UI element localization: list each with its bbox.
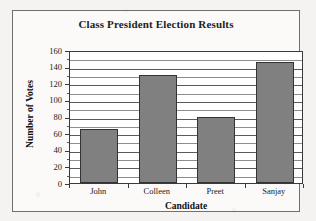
y-tick-label: 0	[32, 180, 62, 189]
y-tick-mark	[65, 134, 69, 135]
bar-series	[70, 52, 302, 183]
y-tick-label: 60	[32, 130, 62, 139]
y-tick-mark	[67, 176, 69, 177]
y-tick-mark	[65, 51, 69, 52]
plot-area	[69, 51, 303, 184]
y-tick-mark	[65, 167, 69, 168]
y-tick-label: 100	[32, 96, 62, 105]
y-tick-mark	[67, 93, 69, 94]
y-tick-mark	[65, 68, 69, 69]
bar	[197, 117, 235, 184]
x-category-label: Preet	[186, 187, 245, 196]
bar	[139, 75, 177, 183]
y-tick-label: 80	[32, 113, 62, 122]
y-tick-mark	[67, 142, 69, 143]
y-tick-label: 40	[32, 146, 62, 155]
x-tick-mark	[303, 184, 304, 188]
y-tick-mark	[67, 109, 69, 110]
chart-outer-frame: Class President Election Results 0204060…	[12, 10, 300, 212]
x-axis-title: Candidate	[69, 201, 303, 211]
y-tick-mark	[67, 59, 69, 60]
x-category-label: Sanjay	[245, 187, 304, 196]
y-tick-mark	[67, 159, 69, 160]
y-tick-mark	[65, 151, 69, 152]
chart-screenshot: Class President Election Results 0204060…	[0, 0, 316, 221]
y-tick-mark	[65, 84, 69, 85]
chart-title: Class President Election Results	[13, 18, 299, 30]
y-tick-label: 20	[32, 163, 62, 172]
y-tick-mark	[67, 126, 69, 127]
y-tick-label: 140	[32, 63, 62, 72]
y-tick-mark	[65, 118, 69, 119]
x-category-label: John	[69, 187, 128, 196]
y-tick-label: 120	[32, 80, 62, 89]
y-tick-mark	[65, 101, 69, 102]
bar	[80, 129, 118, 183]
x-category-label: Colleen	[128, 187, 187, 196]
y-axis-title: Number of Votes	[25, 64, 35, 164]
y-tick-label: 160	[32, 47, 62, 56]
y-tick-mark	[67, 76, 69, 77]
bar	[256, 62, 294, 183]
